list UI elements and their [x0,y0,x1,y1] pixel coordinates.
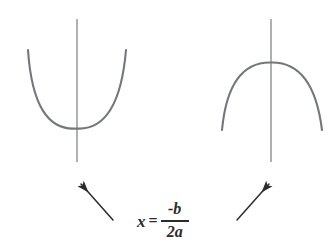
parabola-figure: x = -b 2a [0,0,334,249]
formula-denominator: 2a [164,224,186,241]
axis-of-symmetry-formula: x = -b 2a [137,196,213,246]
formula-numerator: -b [165,201,184,218]
right-pointer-arrow [237,184,269,220]
formula-fraction-bar [161,220,189,222]
left-pointer-arrow [81,184,113,220]
right-parabola-curve [222,62,322,130]
formula-variable: x [137,213,148,230]
formula-equals-sign: = [148,213,161,229]
formula-fraction: -b 2a [161,201,189,241]
